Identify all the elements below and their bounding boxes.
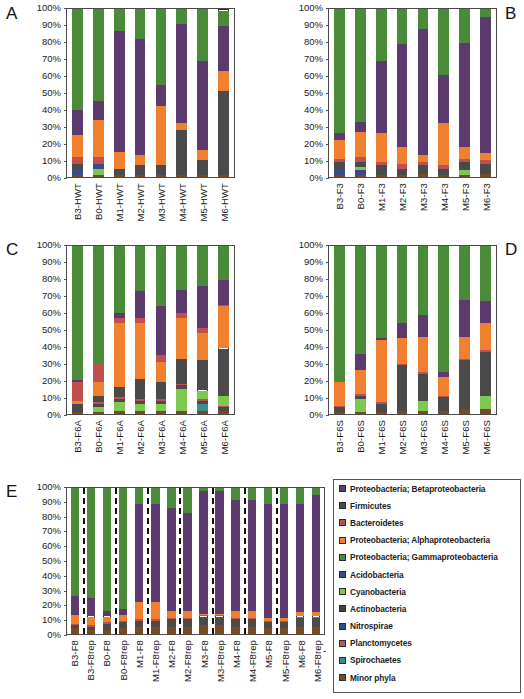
stacked-bar[interactable] [119, 488, 127, 634]
stacked-bar[interactable] [215, 488, 223, 634]
bar-segment [183, 618, 191, 619]
stacked-bar[interactable] [459, 246, 470, 414]
stacked-bar[interactable] [218, 246, 229, 414]
stacked-bar[interactable] [418, 9, 429, 177]
y-axis-tick-label: 40% [304, 105, 323, 115]
bar-segment [248, 488, 256, 500]
bar-segment [93, 402, 104, 404]
stacked-bar[interactable] [93, 9, 104, 177]
bar-slot [244, 488, 260, 634]
stacked-bar[interactable] [135, 9, 146, 177]
plot-area [66, 487, 325, 635]
legend-swatch-beta [339, 485, 346, 492]
legend-label: Bacteroidetes [350, 518, 404, 528]
x-axis-tick: M6-HWT [214, 181, 235, 233]
bar-slot [213, 246, 234, 414]
y-axis-tick-label: 60% [42, 308, 61, 318]
bar-segment [334, 407, 345, 412]
bar-segment [264, 622, 272, 628]
bar-segment [197, 246, 208, 286]
bar-segment [71, 624, 79, 625]
stacked-bar[interactable] [72, 9, 83, 177]
stacked-bar[interactable] [376, 246, 387, 414]
bar-slot [371, 9, 392, 177]
bar-slot [350, 246, 371, 414]
stacked-bar[interactable] [480, 9, 491, 177]
bar-segment [71, 488, 79, 596]
bar-segment [459, 175, 470, 177]
y-axis-tick-label: 100% [37, 482, 61, 492]
x-axis-tick: M3-F3 [413, 181, 434, 233]
stacked-bar[interactable] [93, 246, 104, 414]
stacked-bar[interactable] [103, 488, 111, 634]
y-axis-tick-mark [64, 415, 67, 416]
bar-segment [248, 619, 256, 626]
bar-segment [197, 61, 208, 150]
stacked-bar[interactable] [438, 246, 449, 414]
stacked-bar[interactable] [376, 9, 387, 177]
bar-segment [183, 513, 191, 611]
stacked-bar[interactable] [135, 488, 143, 634]
stacked-bar[interactable] [397, 9, 408, 177]
stacked-bar[interactable] [231, 488, 239, 634]
stacked-bar[interactable] [296, 488, 304, 634]
stacked-bar[interactable] [114, 9, 125, 177]
bar-segment [114, 31, 125, 152]
y-axis-tick-label: 90% [304, 20, 323, 30]
bar-segment [72, 404, 83, 407]
stacked-bar[interactable] [438, 9, 449, 177]
bar-segment [248, 611, 256, 618]
bar-segment [119, 621, 127, 622]
stacked-bar[interactable] [334, 246, 345, 414]
y-axis-tick-label: 30% [42, 586, 61, 596]
bar-segment [135, 323, 146, 378]
x-axis-tick-label: M5-F8 [263, 640, 274, 668]
stacked-bar[interactable] [156, 9, 167, 177]
legend-item: Minor phyla [334, 669, 520, 686]
stacked-bar[interactable] [280, 488, 288, 634]
legend-label: Proteobacteria; Betaproteobacteria [350, 484, 485, 494]
stacked-bar[interactable] [397, 246, 408, 414]
stacked-bar[interactable] [176, 9, 187, 177]
stacked-bar[interactable] [312, 488, 320, 634]
bar-segment [215, 625, 223, 634]
stacked-bar[interactable] [135, 246, 146, 414]
bar-segment [459, 147, 470, 159]
stacked-bar[interactable] [459, 9, 470, 177]
bar-segment [135, 602, 143, 620]
bar-segment [355, 246, 366, 354]
legend-label: Actinobacteria [350, 604, 406, 614]
stacked-bar[interactable] [264, 488, 272, 634]
y-axis-tick-mark [326, 415, 329, 416]
stacked-bar[interactable] [248, 488, 256, 634]
x-axis-tick-label: M1-F3 [375, 183, 386, 211]
stacked-bar[interactable] [167, 488, 175, 634]
stacked-bar[interactable] [480, 246, 491, 414]
stacked-bar[interactable] [87, 488, 95, 634]
x-axis-tick: M5-F3 [455, 181, 476, 233]
stacked-bar[interactable] [176, 246, 187, 414]
stacked-bar[interactable] [197, 9, 208, 177]
stacked-bar[interactable] [156, 246, 167, 414]
legend-item: Spirochaetes [334, 652, 520, 669]
stacked-bar[interactable] [151, 488, 159, 634]
stacked-bar[interactable] [197, 246, 208, 414]
bar-segment [135, 9, 146, 39]
stacked-bar[interactable] [199, 488, 207, 634]
bar-segment [87, 617, 95, 626]
stacked-bar[interactable] [418, 246, 429, 414]
legend-item: Proteobacteria; Betaproteobacteria [334, 480, 520, 497]
bar-segment [135, 39, 146, 155]
x-axis-tick: M4-F8 [228, 638, 244, 699]
x-axis-tick-label: M5-F6A [198, 420, 209, 454]
stacked-bar[interactable] [72, 246, 83, 414]
stacked-bar[interactable] [71, 488, 79, 634]
stacked-bar[interactable] [355, 9, 366, 177]
stacked-bar[interactable] [355, 246, 366, 414]
stacked-bar[interactable] [334, 9, 345, 177]
stacked-bar[interactable] [114, 246, 125, 414]
stacked-bar[interactable] [183, 488, 191, 634]
stacked-bar[interactable] [218, 9, 229, 177]
x-axis-tick: M1-F8 [131, 638, 147, 699]
x-axis-tick: M4-F6S [434, 418, 455, 476]
